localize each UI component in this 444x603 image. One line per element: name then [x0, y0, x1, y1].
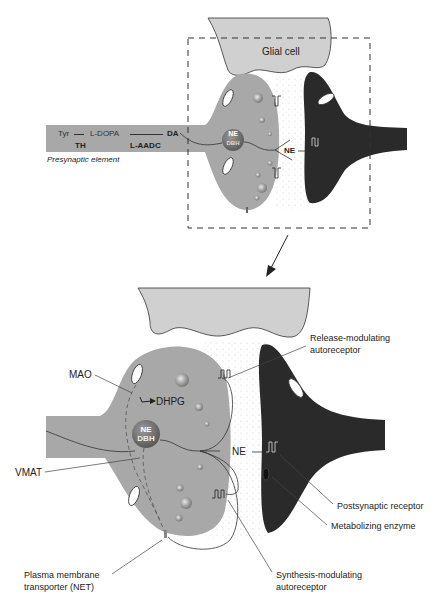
laadc-label: L-AADC — [130, 140, 161, 152]
postsynaptic-neuron — [304, 72, 407, 203]
vesicle — [175, 373, 189, 387]
net-transporter-icon — [246, 207, 248, 213]
da-label: DA — [167, 128, 179, 140]
release-autoreceptor-label-line1: Release-modulating — [310, 332, 390, 344]
released-ne-label: NE — [232, 446, 246, 458]
leader-net — [112, 540, 162, 574]
vesicle — [268, 161, 273, 166]
metabolizing-enzyme-label: Metabolizing enzyme — [331, 520, 416, 532]
vesicle — [257, 183, 267, 193]
vesicle-dbh-label: DBH — [223, 139, 243, 147]
vesicle — [268, 132, 272, 136]
pathway-arrow — [130, 134, 163, 135]
vesicle — [256, 173, 261, 178]
glial-cell-label: Glial cell — [262, 46, 300, 58]
vesicle — [259, 117, 265, 123]
vesicle — [195, 403, 203, 411]
pathway-arrow — [74, 134, 84, 135]
net-label-line1: Plasma membrane — [24, 569, 100, 581]
vesicle-ne-label: NE — [134, 425, 158, 434]
vesicle — [205, 422, 210, 427]
top-panel — [46, 18, 407, 277]
vesicle — [253, 93, 263, 103]
mao-label: MAO — [69, 369, 92, 381]
vesicle — [255, 196, 260, 201]
synapse-diagram — [0, 0, 444, 603]
vesicle-ne-label: NE — [223, 130, 243, 138]
net-label-line2: transporter (NET) — [24, 581, 94, 593]
vmat-label: VMAT — [15, 467, 42, 479]
presynaptic-element-label: Presynaptic element — [47, 154, 119, 166]
tyr-label: Tyr — [58, 128, 69, 140]
net-transporter-icon — [164, 530, 167, 538]
ldopa-label: L-DOPA — [90, 128, 119, 140]
vesicle — [177, 485, 184, 492]
dhpg-label: DHPG — [156, 396, 185, 408]
metabolizing-enzyme-icon — [263, 468, 269, 480]
postsynaptic-receptor-label: Postsynaptic receptor — [337, 500, 424, 512]
vesicle — [197, 464, 203, 470]
th-label: TH — [75, 140, 86, 152]
glial-cell — [138, 288, 310, 337]
released-ne-label: NE — [284, 145, 295, 157]
zoom-arrow — [271, 235, 288, 268]
vesicle-dbh-label: DBH — [134, 434, 158, 443]
synthesis-autoreceptor-label-line2: autoreceptor — [276, 581, 327, 593]
vesicle — [180, 497, 192, 509]
synthesis-autoreceptor-label-line1: Synthesis-modulating — [276, 569, 362, 581]
vesicle — [176, 515, 183, 522]
release-autoreceptor-label-line2: autoreceptor — [310, 344, 361, 356]
arrowhead-icon — [266, 265, 276, 277]
